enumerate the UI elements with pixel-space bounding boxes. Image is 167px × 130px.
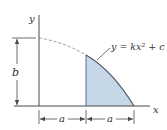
shaded-area	[86, 55, 134, 106]
b-dimension-label: b	[12, 66, 19, 79]
dashed-curve	[39, 38, 86, 55]
x-axis-label: x	[153, 104, 159, 115]
equation-label: y = kx² + c	[110, 41, 165, 52]
a-dimension-label-right: a	[107, 113, 113, 124]
y-axis-label: y	[28, 13, 35, 24]
equation-leader	[97, 48, 110, 60]
diagram-canvas: y x b a a y = kx² + c	[0, 0, 167, 130]
a-dimension-label-left: a	[59, 113, 65, 124]
